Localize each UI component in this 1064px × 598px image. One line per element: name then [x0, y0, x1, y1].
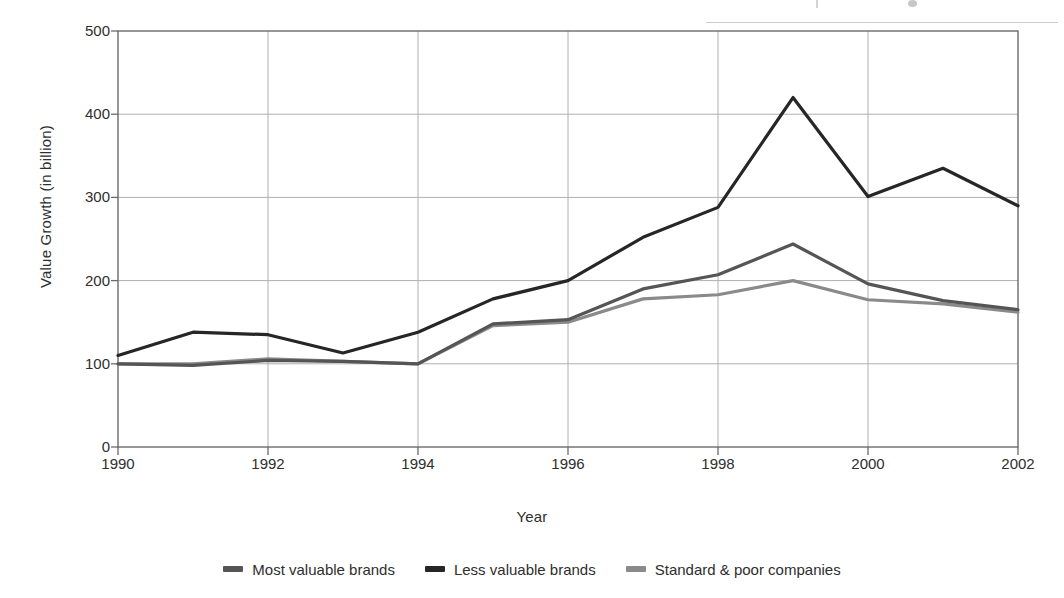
- legend-swatch-icon: [223, 566, 243, 572]
- y-axis-tick-label: 100: [64, 356, 110, 371]
- x-axis-title: Year: [0, 508, 1064, 525]
- y-axis-tick-label: 0: [64, 439, 110, 454]
- scan-artifact-dot: [908, 0, 917, 7]
- legend-item[interactable]: Standard & poor companies: [626, 561, 841, 578]
- scan-artifact-mark: [816, 0, 818, 8]
- legend-swatch-icon: [425, 566, 445, 572]
- x-axis-tick-label: 1992: [251, 455, 284, 472]
- x-axis-tick-label: 2002: [1001, 455, 1034, 472]
- y-axis-tick-label: 500: [64, 23, 110, 38]
- x-axis-tick-label: 1990: [101, 455, 134, 472]
- x-axis-tick-label: 1994: [401, 455, 434, 472]
- legend-label: Standard & poor companies: [655, 561, 841, 578]
- chart-legend: Most valuable brandsLess valuable brands…: [0, 556, 1064, 582]
- y-axis-tick-label: 200: [64, 273, 110, 288]
- y-axis-tick-label: 400: [64, 106, 110, 121]
- legend-item[interactable]: Most valuable brands: [223, 561, 395, 578]
- legend-label: Most valuable brands: [252, 561, 395, 578]
- legend-item[interactable]: Less valuable brands: [425, 561, 596, 578]
- line-chart: Value Growth (in billion) 01002003004005…: [0, 0, 1064, 598]
- x-axis-tick-label: 2000: [851, 455, 884, 472]
- x-axis-tick-label: 1996: [551, 455, 584, 472]
- legend-label: Less valuable brands: [454, 561, 596, 578]
- scan-artifact-line: [706, 22, 1058, 23]
- legend-swatch-icon: [626, 566, 646, 572]
- x-axis-tick-labels: 1990199219941996199820002002: [0, 455, 1064, 479]
- x-axis-tick-label: 1998: [701, 455, 734, 472]
- y-axis-tick-label: 300: [64, 189, 110, 204]
- y-axis-title: Value Growth (in billion): [37, 92, 54, 322]
